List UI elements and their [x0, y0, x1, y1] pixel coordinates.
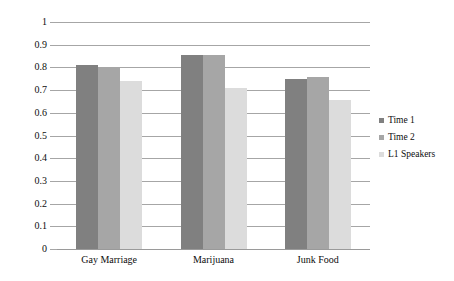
- legend-item-label: L1 Speakers: [388, 149, 435, 160]
- square-marker-icon: [379, 118, 384, 123]
- y-axis-tick: [50, 181, 57, 182]
- y-axis-tick: [50, 45, 57, 46]
- y-axis-tick-label: 0.7: [35, 85, 48, 95]
- y-axis-tick-label: 0.2: [35, 199, 48, 209]
- bar: [181, 55, 203, 249]
- bar: [285, 79, 307, 249]
- legend-item-label: Time 1: [388, 115, 415, 126]
- y-axis-tick-label: 0.6: [35, 108, 48, 118]
- y-axis-tick: [50, 136, 57, 137]
- y-axis-tick: [50, 113, 57, 114]
- y-axis-tick-label: 0.4: [35, 153, 48, 163]
- y-axis-tick: [50, 249, 57, 250]
- bar: [120, 81, 142, 249]
- x-axis-category-label: Junk Food: [266, 254, 370, 266]
- legend-item[interactable]: Time 2: [379, 129, 451, 146]
- bar-group: [181, 22, 247, 249]
- y-axis-tick-label: 0.9: [35, 40, 48, 50]
- chart-legend: Time 1Time 2L1 Speakers: [379, 112, 451, 163]
- bar-groups: [57, 22, 370, 249]
- y-axis-tick: [50, 90, 57, 91]
- y-axis-tick-label: 0.8: [35, 62, 48, 72]
- legend-item[interactable]: L1 Speakers: [379, 146, 451, 163]
- x-axis-category-label: Marijuana: [161, 254, 265, 266]
- bar-group: [76, 22, 142, 249]
- gridline: [57, 249, 370, 250]
- y-axis-tick: [50, 158, 57, 159]
- square-marker-icon: [379, 152, 384, 157]
- bar: [329, 100, 351, 249]
- bar: [307, 77, 329, 249]
- y-axis-tick: [50, 226, 57, 227]
- y-axis-tick-label: 0.1: [35, 221, 48, 231]
- y-axis-tick: [50, 67, 57, 68]
- y-axis-labels: 10.90.80.70.60.50.40.30.20.10: [0, 0, 47, 281]
- bar-chart: 10.90.80.70.60.50.40.30.20.10 Gay Marria…: [0, 0, 454, 281]
- y-axis-tick-label: 0.5: [35, 131, 48, 141]
- bar: [203, 55, 225, 249]
- bar: [225, 88, 247, 249]
- plot-area: [57, 22, 370, 249]
- square-marker-icon: [379, 135, 384, 140]
- y-axis-tick: [50, 22, 57, 23]
- y-axis-tick: [50, 204, 57, 205]
- legend-item[interactable]: Time 1: [379, 112, 451, 129]
- bar: [98, 67, 120, 249]
- x-axis-category-label: Gay Marriage: [57, 254, 161, 266]
- y-axis-tick-label: 0.3: [35, 176, 48, 186]
- y-axis-tick-label: 0: [42, 244, 47, 254]
- y-axis-tick-label: 1: [42, 17, 47, 27]
- bar: [76, 65, 98, 249]
- legend-item-label: Time 2: [388, 132, 415, 143]
- bar-group: [285, 22, 351, 249]
